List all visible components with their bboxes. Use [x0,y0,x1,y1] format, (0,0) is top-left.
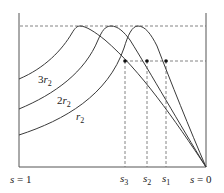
curve-3r2 [19,26,206,167]
label-s1: s1 [162,172,170,187]
label-2r2: 2r2 [57,94,71,109]
label-3r2: 3r2 [38,73,52,88]
label-s-equals-1: s = 1 [10,173,32,185]
label-r2: r2 [76,110,84,125]
label-s3: s3 [120,172,128,187]
point-s2 [145,59,149,63]
diagram: 3r2 2r2 r2 s3 s2 s1 s = 1 s = 0 [0,0,224,193]
point-s3 [123,59,127,63]
label-s2: s2 [143,172,151,187]
point-s1 [164,59,168,63]
label-s-equals-0: s = 0 [190,173,212,185]
